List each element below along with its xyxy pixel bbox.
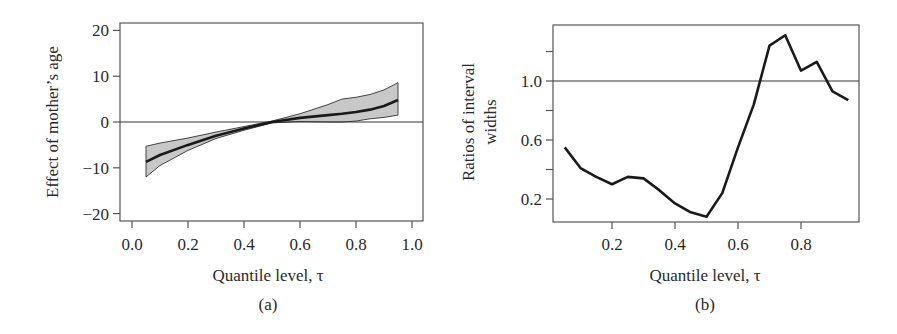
x-tick-label: 0.2: [601, 235, 622, 254]
x-tick-label: 0.8: [790, 235, 811, 254]
y-axis-ticks: 20100−10−20: [82, 21, 120, 223]
y-tick-label: 0: [101, 113, 110, 132]
x-axis-label: Quantile level, τ: [212, 266, 323, 285]
plot-frame-b: [553, 25, 859, 222]
x-tick-label: 0.8: [345, 235, 366, 254]
y-tick-label: 20: [92, 21, 109, 40]
panel-a: 20100−10−20 0.00.20.40.60.81.0 Effect of…: [43, 21, 423, 314]
y-tick-label: −10: [82, 159, 109, 178]
panel-label-b: (b): [695, 295, 715, 314]
y-tick-label: 1.0: [521, 72, 542, 91]
x-tick-label: 0.6: [727, 235, 748, 254]
confidence-band: [146, 83, 398, 177]
y-axis-label-line1: Ratios of interval: [459, 63, 478, 181]
y-tick-label: 0.2: [521, 190, 542, 209]
x-tick-label: 0.6: [289, 235, 310, 254]
ratio-line: [565, 35, 849, 216]
y-tick-label: −20: [82, 205, 109, 224]
y-axis-label-line2: widths: [481, 99, 500, 144]
x-tick-label: 1.0: [401, 235, 422, 254]
x-axis-ticks: 0.00.20.40.60.81.0: [121, 221, 422, 254]
figure: 20100−10−20 0.00.20.40.60.81.0 Effect of…: [0, 0, 897, 334]
y-tick-label: 0.6: [521, 131, 542, 150]
x-tick-label: 0.4: [233, 235, 255, 254]
x-axis-ticks: 0.20.40.60.8: [601, 222, 811, 254]
x-tick-label: 0.4: [664, 235, 686, 254]
panel-label-a: (a): [259, 295, 278, 314]
y-axis-ticks: 1.00.60.2: [521, 52, 553, 210]
x-tick-label: 0.0: [121, 235, 142, 254]
y-axis-label: Effect of mother’s age: [43, 46, 62, 198]
y-tick-label: 10: [92, 67, 109, 86]
x-axis-label: Quantile level, τ: [649, 266, 760, 285]
x-tick-label: 0.2: [177, 235, 198, 254]
panel-b: 1.00.60.2 0.20.40.60.8 Ratios of interva…: [459, 25, 859, 314]
